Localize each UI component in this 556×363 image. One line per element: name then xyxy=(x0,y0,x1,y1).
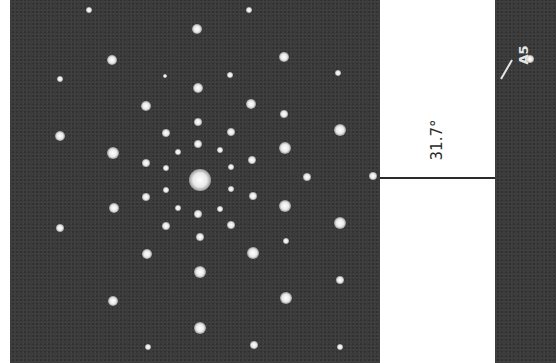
panel-label: A5 xyxy=(516,45,531,64)
diffraction-spot xyxy=(141,101,151,111)
diffraction-spot xyxy=(248,156,256,164)
angle-indicator-line xyxy=(380,177,495,179)
diffraction-spot xyxy=(279,142,291,154)
diffraction-spot xyxy=(194,210,202,218)
diffraction-spot xyxy=(280,110,288,118)
diffraction-spot xyxy=(189,169,211,191)
angle-label: 31.7° xyxy=(428,120,446,161)
diffraction-spot xyxy=(163,187,169,193)
diffraction-spot xyxy=(280,292,292,304)
diffraction-spot xyxy=(227,128,235,136)
diffraction-spot xyxy=(227,72,233,78)
diffraction-spot xyxy=(196,233,204,241)
diffraction-spot xyxy=(162,222,170,230)
diffraction-spot xyxy=(228,186,234,192)
figure-gap xyxy=(380,0,495,363)
diffraction-spot xyxy=(142,159,150,167)
diffraction-spot xyxy=(228,164,234,170)
diffraction-spot xyxy=(334,217,346,229)
diffraction-spot xyxy=(142,193,150,201)
diffraction-spot xyxy=(175,205,181,211)
diffraction-spot xyxy=(193,83,203,93)
diffraction-spot xyxy=(194,322,206,334)
diffraction-spot xyxy=(227,221,235,229)
diffraction-spot xyxy=(337,344,343,350)
diffraction-spot xyxy=(334,124,346,136)
diffraction-spot xyxy=(145,344,151,350)
diffraction-spot xyxy=(249,192,257,200)
diffraction-spot xyxy=(194,140,202,148)
diffraction-pattern-left xyxy=(10,0,380,363)
diffraction-spot xyxy=(175,149,181,155)
diffraction-spot xyxy=(56,224,64,232)
diffraction-spot xyxy=(86,7,92,13)
diffraction-spot xyxy=(142,249,152,259)
diffraction-spot xyxy=(303,173,311,181)
diffraction-spot xyxy=(194,118,202,126)
diffraction-spot xyxy=(109,203,119,213)
diffraction-spot xyxy=(107,147,119,159)
diffraction-spot xyxy=(335,70,341,76)
diffraction-spot xyxy=(250,341,258,349)
diffraction-pattern-right: A5 xyxy=(495,0,556,363)
diffraction-spot xyxy=(336,276,344,284)
diffraction-spot xyxy=(246,7,252,13)
diffraction-spot xyxy=(369,172,377,180)
diffraction-spot xyxy=(192,24,202,34)
diffraction-spot xyxy=(217,206,223,212)
diffraction-spot xyxy=(217,147,223,153)
diffraction-spot xyxy=(55,131,65,141)
diffraction-spot xyxy=(279,52,289,62)
diffraction-spot xyxy=(108,296,118,306)
diffraction-spot xyxy=(194,266,206,278)
diffraction-spot xyxy=(57,76,63,82)
diffraction-spot xyxy=(246,99,256,109)
diffraction-spot xyxy=(247,247,259,259)
diffraction-spot xyxy=(283,238,289,244)
diffraction-spot xyxy=(107,55,117,65)
diffraction-spot xyxy=(279,200,291,212)
diffraction-spot xyxy=(162,129,170,137)
diffraction-spot xyxy=(163,74,167,78)
diffraction-spot xyxy=(163,165,169,171)
